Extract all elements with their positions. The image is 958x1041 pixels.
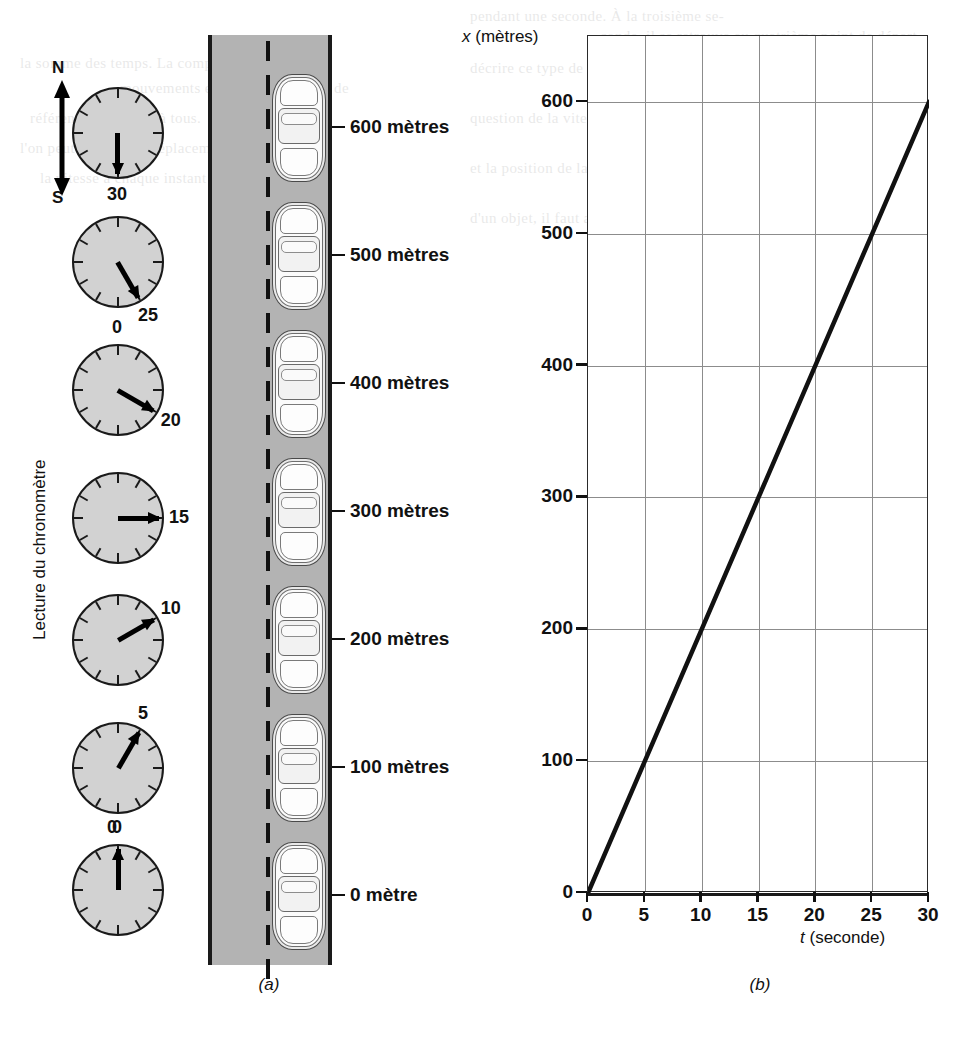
lane-dash	[266, 687, 270, 707]
tick-mark	[135, 479, 141, 488]
position-time-plot	[587, 35, 928, 892]
car-hood	[280, 720, 318, 746]
lane-dash	[266, 925, 270, 945]
y-axis-label: x (mètres)	[462, 27, 539, 47]
x-tick-mark	[813, 892, 816, 902]
tick-mark	[117, 596, 119, 605]
stopwatch-30	[72, 87, 164, 179]
tick-mark	[74, 889, 83, 891]
tick-mark	[79, 150, 88, 156]
tick-mark	[135, 548, 141, 557]
car-trunk	[280, 404, 318, 432]
stopwatch-15	[72, 472, 164, 564]
lane-dash	[266, 585, 270, 605]
tick-mark	[95, 851, 101, 860]
tick-mark	[95, 601, 101, 610]
tick-mark	[135, 920, 141, 929]
distance-label: 300 mètres	[350, 500, 449, 522]
car-hood	[280, 80, 318, 106]
x-tick-5: 5	[622, 892, 666, 926]
tick-mark	[79, 110, 88, 116]
hand-arrowhead	[112, 847, 124, 860]
car-trunk	[280, 148, 318, 176]
tick-mark	[95, 292, 101, 301]
stopwatch-reading-30: 30	[107, 184, 127, 205]
distance-marker-200: 200 mètres	[332, 628, 449, 650]
distance-label: 500 mètres	[350, 244, 449, 266]
lane-dash	[266, 755, 270, 775]
tick-mark	[135, 420, 141, 429]
x-tick-25: 25	[849, 892, 893, 926]
distance-label: 0 mètre	[350, 884, 418, 906]
y-tick-label: 200	[541, 617, 573, 639]
tick-mark	[148, 657, 157, 663]
distance-label: 200 mètres	[350, 628, 449, 650]
stopwatch-reading-10: 10	[161, 598, 181, 619]
distance-tick	[332, 638, 345, 641]
car-at-500m	[272, 202, 326, 310]
car-cabin	[278, 492, 320, 528]
car-trunk	[280, 916, 318, 944]
x-axis-unit: (seconde)	[809, 928, 885, 947]
tick-mark	[79, 867, 88, 873]
distance-tick	[332, 382, 345, 385]
tick-mark	[148, 110, 157, 116]
stopwatch-zero-mark: 0	[112, 817, 122, 838]
tick-mark	[79, 495, 88, 501]
lane-dash	[266, 891, 270, 911]
lane-dash	[266, 41, 270, 61]
tick-mark	[117, 474, 119, 483]
tick-mark	[79, 617, 88, 623]
lane-dash	[266, 517, 270, 537]
tick-mark	[135, 798, 141, 807]
tick-mark	[95, 163, 101, 172]
tick-mark	[117, 675, 119, 684]
car-hood	[280, 848, 318, 874]
tick-mark	[79, 657, 88, 663]
distance-marker-100: 100 mètres	[332, 756, 449, 778]
tick-mark	[117, 803, 119, 812]
car-trunk	[280, 788, 318, 816]
lane-dash	[266, 313, 270, 333]
tick-mark	[95, 670, 101, 679]
tick-mark	[153, 261, 162, 263]
tick-mark	[135, 94, 141, 103]
x-tick-mark	[699, 892, 702, 902]
distance-tick	[332, 254, 345, 257]
car-hood	[280, 208, 318, 234]
tick-mark	[148, 867, 157, 873]
car-hood	[280, 336, 318, 362]
stopwatch-reading-5: 5	[138, 703, 148, 724]
y-tick-mark	[576, 759, 587, 762]
x-tick-30: 30	[906, 892, 950, 926]
tick-mark	[117, 724, 119, 733]
y-tick-100: 100	[495, 747, 587, 773]
car-at-300m	[272, 458, 326, 566]
tick-mark	[135, 851, 141, 860]
lane-dash	[266, 857, 270, 877]
lane-dash	[266, 653, 270, 673]
car-trunk	[280, 532, 318, 560]
distance-marker-600: 600 mètres	[332, 116, 449, 138]
lane-dash	[266, 551, 270, 571]
lane-dash	[266, 245, 270, 265]
car-at-600m	[272, 74, 326, 182]
lane-dash	[266, 211, 270, 231]
lane-dash	[266, 279, 270, 299]
y-tick-200: 200	[495, 615, 587, 641]
x-tick-20: 20	[792, 892, 836, 926]
tick-mark	[74, 639, 83, 641]
tick-mark	[74, 517, 83, 519]
bleed-text: pendant une seconde. À la troisième se-	[470, 8, 724, 25]
car-trunk	[280, 660, 318, 688]
hand-arrowhead	[113, 163, 125, 176]
car-cabin	[278, 620, 320, 656]
tick-mark	[117, 297, 119, 306]
tick-mark	[95, 798, 101, 807]
y-tick-500: 500	[495, 220, 587, 246]
y-tick-mark	[576, 627, 587, 630]
y-tick-label: 400	[541, 354, 573, 376]
tick-mark	[153, 639, 162, 641]
distance-marker-0: 0 mètre	[332, 884, 418, 906]
tick-mark	[135, 351, 141, 360]
